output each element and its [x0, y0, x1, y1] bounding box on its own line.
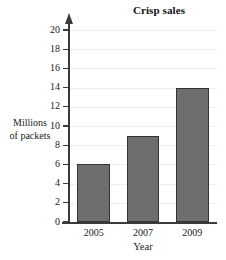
y-axis-tick	[63, 87, 69, 88]
y-axis-tick-label: 18	[20, 44, 60, 54]
plot-area	[69, 30, 217, 222]
y-axis-tick	[63, 221, 69, 222]
y-axis-tick-label: 2	[20, 197, 60, 207]
y-axis-tick-label: 16	[20, 63, 60, 73]
y-axis-tick	[63, 29, 69, 30]
gridline	[69, 49, 217, 50]
x-axis-title: Year	[69, 241, 217, 252]
bar	[127, 136, 160, 222]
bar	[77, 164, 110, 222]
y-axis-tick	[63, 183, 69, 184]
y-axis-tick-label: 6	[20, 159, 60, 169]
y-axis-tick	[63, 202, 69, 203]
y-axis-tick	[63, 68, 69, 69]
x-axis-tick-label: 2007	[118, 227, 167, 238]
y-axis-tick-label: 4	[20, 178, 60, 188]
x-axis-line	[62, 222, 217, 224]
y-axis-tick	[63, 49, 69, 50]
y-axis-tick-label: 20	[20, 25, 60, 35]
y-axis-tick-label: 12	[20, 101, 60, 111]
y-axis-tick-label: 10	[20, 121, 60, 131]
y-axis-line	[68, 22, 70, 223]
y-axis-tick	[63, 164, 69, 165]
y-axis-tick-label: 14	[20, 82, 60, 92]
y-axis-tick-label: 0	[20, 217, 60, 227]
x-axis-tick-label: 2005	[69, 227, 118, 238]
y-axis-tick	[63, 106, 69, 107]
y-axis-tick	[63, 145, 69, 146]
y-axis-tick-label: 8	[20, 140, 60, 150]
y-axis-tick	[63, 125, 69, 126]
gridline	[69, 68, 217, 69]
crisp-sales-bar-chart: Crisp sales Millions of packets Year 024…	[0, 0, 226, 260]
bar	[176, 88, 209, 222]
x-axis-tick-label: 2009	[168, 227, 217, 238]
y-axis-arrow-icon	[65, 13, 73, 24]
chart-title: Crisp sales	[96, 4, 222, 16]
gridline	[69, 30, 217, 31]
